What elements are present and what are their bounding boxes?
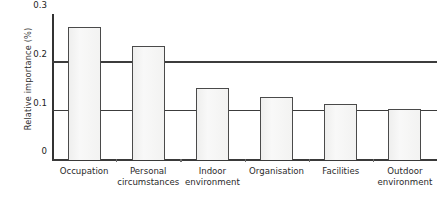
x-axis-label: Organisation <box>245 166 309 177</box>
gridline <box>52 61 437 62</box>
x-axis-label: Facilities <box>309 166 373 177</box>
category-tick <box>116 159 117 162</box>
bar <box>388 109 421 160</box>
x-axis-label: Outdoor environment <box>373 166 437 188</box>
category-tick <box>309 159 310 162</box>
y-tick-label: 0.2 <box>33 50 47 59</box>
y-tick-label: 0.3 <box>33 1 47 10</box>
category-tick <box>373 159 374 162</box>
bar-chart: Relative importance (%) 00.10.20.3 Occup… <box>0 0 442 201</box>
bar <box>196 88 229 161</box>
bar <box>260 97 293 160</box>
gridline <box>52 110 437 111</box>
x-axis-label: Indoor environment <box>180 166 244 188</box>
y-tick-label: 0 <box>42 147 47 156</box>
bar <box>68 27 101 160</box>
category-tick <box>180 159 181 162</box>
y-tick-label: 0.1 <box>33 98 47 107</box>
category-tick <box>245 159 246 162</box>
y-axis-title: Relative importance (%) <box>23 4 33 154</box>
bar <box>132 46 165 160</box>
x-axis-label: Personal circumstances <box>116 166 180 188</box>
plot-area: 00.10.20.3 <box>52 14 437 160</box>
bar <box>324 104 357 160</box>
x-axis-label: Occupation <box>52 166 116 177</box>
